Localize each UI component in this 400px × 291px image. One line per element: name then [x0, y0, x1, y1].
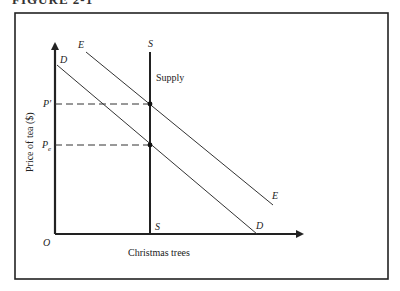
supply-demand-diagram: S Supply S D D E E P' Pe O Christmas tre… [0, 0, 400, 291]
origin-label: O [43, 237, 50, 248]
supply-top-label: S [148, 38, 153, 49]
y-axis-label: Price of tea ($) [24, 112, 36, 172]
demand-e-top-label: E [77, 39, 84, 50]
supply-bottom-label: S [155, 221, 160, 232]
intersection-d-s [148, 143, 153, 148]
demand-d-bottom-label: D [255, 220, 264, 231]
x-axis-label: Christmas trees [128, 247, 190, 258]
demand-e-bottom-label: E [271, 190, 278, 201]
price-new-label: P' [42, 98, 52, 109]
intersection-e-s [148, 102, 153, 107]
supply-name-label: Supply [156, 72, 184, 83]
price-eq-label: Pe [41, 139, 51, 153]
demand-d-top-label: D [59, 54, 68, 65]
demand-curve-d [57, 65, 257, 234]
